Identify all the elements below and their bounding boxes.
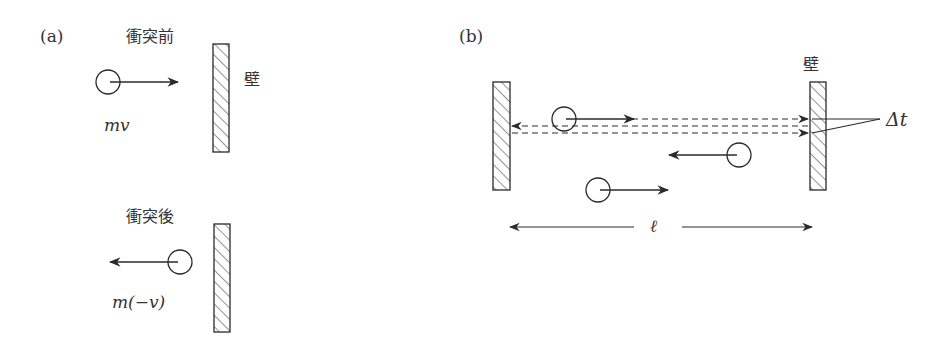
after-collision-title: 衝突後 [126,203,174,227]
wall-label-a: 壁 [244,66,260,90]
panel-a-after [110,224,230,332]
wall-b-left [493,82,510,190]
panel-b-label: (b) [459,26,483,46]
wall-b-right [810,82,826,190]
momentum-before: mv [104,115,130,135]
momentum-after: m(−v) [112,292,165,312]
before-collision-title: 衝突前 [126,23,174,47]
wall-a-before [213,44,229,152]
delta-t-label: Δt [886,108,907,130]
panel-a-before [96,44,229,152]
panel-a-label: (a) [40,26,63,46]
wall-label-b: 壁 [803,51,819,75]
wall-a-after [214,224,230,332]
panel-b [493,82,880,227]
length-label: ℓ [650,216,657,237]
